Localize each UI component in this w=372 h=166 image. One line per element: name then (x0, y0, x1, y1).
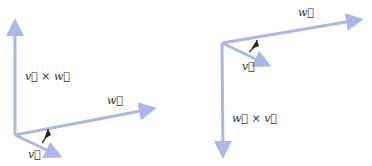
w-vector (15, 109, 151, 135)
left-v-label: v⃗ (28, 148, 41, 161)
left-w-label: w⃗ (107, 94, 123, 107)
left-figure (15, 24, 151, 155)
w-vector (222, 20, 358, 43)
left-cross-label: v⃗ × w⃗ (25, 70, 70, 83)
cross-product-diagram (0, 0, 372, 166)
right-w-label: w⃗ (298, 6, 314, 19)
right-figure (222, 20, 358, 153)
wxv-vector (222, 43, 223, 153)
right-v-label: v⃗ (242, 60, 255, 73)
right-cross-label: w⃗ × v⃗ (232, 112, 277, 125)
